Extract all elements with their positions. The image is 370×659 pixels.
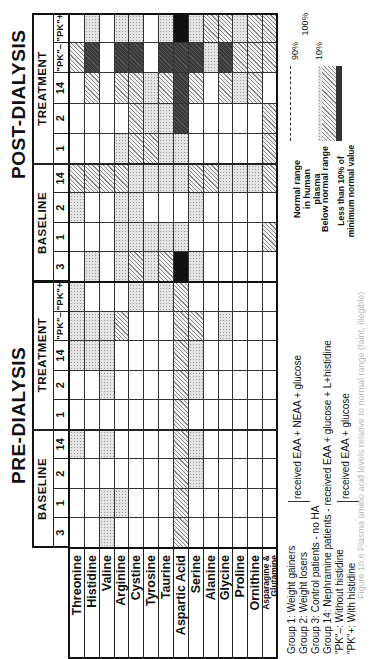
row-label: Asparagine &Glutamine [262,549,277,659]
heatmap-cell [218,430,233,460]
bracket-line-1 [288,501,310,506]
heatmap-cell [232,194,247,224]
column-header: "PK"– [53,43,69,73]
heatmap-cell [69,312,84,342]
heatmap-cell [262,134,277,164]
heatmap-cell [173,134,188,164]
scale-label-normal: Normal range in human plasma [292,159,322,219]
heatmap-cell [203,519,218,549]
heatmap-cell [232,164,247,194]
heatmap-cell [84,73,99,103]
heatmap-cell [114,519,129,549]
heatmap-cell [247,341,262,371]
heatmap-cell [218,371,233,401]
heatmap-cell [188,134,203,164]
heatmap-cell [143,223,158,253]
heatmap-cell [247,13,262,43]
heatmap-cell [143,282,158,312]
heatmap-cell [203,134,218,164]
heatmap-cell [173,164,188,194]
heatmap-cell [262,104,277,134]
heatmap-cell [247,194,262,224]
heatmap-cell [218,312,233,342]
heatmap-cell [114,400,129,430]
heatmap-cell [69,341,84,371]
heatmap-cell [158,282,173,312]
heatmap-cell [203,400,218,430]
heatmap-cell [99,371,114,401]
row-label: Taurine [158,549,173,659]
heatmap-cell [262,223,277,253]
heatmap-cell [99,43,114,73]
heatmap-cell [69,13,84,43]
heatmap-cell [69,223,84,253]
column-header: 2 [53,194,69,224]
heatmap-cell [262,460,277,490]
footnote-group-3: Group 3: Control patients - no HA [310,340,322,654]
heatmap-cell [232,341,247,371]
heatmap-cell [203,194,218,224]
row-label: Tyrosine [143,549,158,659]
heatmap-cell [218,164,233,194]
heatmap-cell [84,519,99,549]
heatmap-cell [128,341,143,371]
heatmap-cell [247,430,262,460]
heatmap-cell [69,430,84,460]
heatmap-cell [114,253,129,283]
heatmap-cell [84,282,99,312]
heatmap-cell [158,134,173,164]
heatmap-cell [158,341,173,371]
heatmap-cell [247,371,262,401]
post-baseline-label: BASELINE [36,164,48,282]
heatmap-cell [158,489,173,519]
heatmap-cell [247,519,262,549]
heatmap-cell [262,253,277,283]
heatmap-cell [232,43,247,73]
heatmap-cell [203,460,218,490]
heatmap-cell [128,400,143,430]
heatmap-cell [84,430,99,460]
heatmap-cell [247,460,262,490]
divider-post-baseline-treatment [32,164,278,166]
heatmap-cell [84,223,99,253]
heatmap-cell [232,519,247,549]
figure-caption: Figure 10.6 Plasma amino acid levels rel… [356,292,366,599]
heatmap-cell [114,164,129,194]
heatmap-cell [128,460,143,490]
heatmap-cell [114,73,129,103]
heatmap-cell [128,13,143,43]
heatmap-cell [232,489,247,519]
heatmap-cell [84,104,99,134]
heatmap-cell [232,73,247,103]
heatmap-cell [218,519,233,549]
heatmap-cell [173,519,188,549]
row-label: Cystine [128,549,143,659]
heatmap-cell [218,223,233,253]
heatmap-cell [232,134,247,164]
heatmap-cell [218,460,233,490]
heatmap-cell [218,43,233,73]
heatmap-cell [232,223,247,253]
heatmap-cell [143,489,158,519]
heatmap-cell [128,104,143,134]
row-label: Alanine [203,549,218,659]
heatmap-cell [143,519,158,549]
heatmap-cell [128,282,143,312]
heatmap-cell [203,371,218,401]
heatmap-cell [114,13,129,43]
heatmap-cell [188,460,203,490]
row-label: Proline [232,549,247,659]
heatmap-cell [84,253,99,283]
column-header: 3 [53,519,69,549]
heatmap-cell [143,253,158,283]
heatmap-cell [158,223,173,253]
heatmap-cell [128,73,143,103]
heatmap-cell [262,13,277,43]
heatmap-cell [203,43,218,73]
heatmap-cell [99,460,114,490]
row-label: Valine [99,549,114,659]
heatmap-cell [262,43,277,73]
heatmap-cell [218,104,233,134]
heatmap-cell [99,223,114,253]
heatmap-cell [232,400,247,430]
